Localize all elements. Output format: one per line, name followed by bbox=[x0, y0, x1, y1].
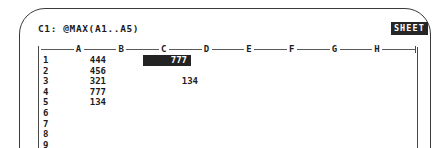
table-row: 2 456 bbox=[38, 66, 418, 77]
column-header-rule bbox=[382, 49, 415, 50]
column-header-h[interactable]: H bbox=[372, 45, 382, 54]
spreadsheet-grid: A B C D E F G H 1 444 777 bbox=[38, 44, 418, 148]
table-row: 9 bbox=[38, 140, 418, 148]
column-header-rule bbox=[126, 49, 159, 50]
cell-c1[interactable]: 777 bbox=[143, 55, 191, 67]
column-header-b[interactable]: B bbox=[116, 45, 126, 54]
cell-c3[interactable]: 134 bbox=[142, 76, 198, 87]
column-header-rule bbox=[41, 49, 74, 50]
table-row: 3 321 134 bbox=[38, 76, 418, 87]
row-number-1[interactable]: 1 bbox=[43, 55, 48, 66]
formula-line: C1: @MAX(A1..A5) bbox=[38, 23, 139, 35]
table-row: 1 444 777 bbox=[38, 55, 418, 66]
cell-a3[interactable]: 321 bbox=[50, 76, 106, 87]
row-number-6[interactable]: 6 bbox=[43, 108, 48, 119]
column-header-g[interactable]: G bbox=[330, 45, 340, 54]
row-number-9[interactable]: 9 bbox=[43, 140, 48, 148]
table-row: 8 bbox=[38, 129, 418, 140]
cell-a1[interactable]: 444 bbox=[50, 55, 106, 66]
grid-rows: 1 444 777 2 456 3 321 134 4 777 5 134 bbox=[38, 55, 418, 148]
cell-a2[interactable]: 456 bbox=[50, 66, 106, 77]
column-header-row: A B C D E F G H bbox=[38, 44, 418, 55]
column-header-rule bbox=[169, 49, 202, 50]
cell-a5[interactable]: 134 bbox=[50, 97, 106, 108]
table-row: 5 134 bbox=[38, 97, 418, 108]
table-row: 6 bbox=[38, 108, 418, 119]
column-header-rule bbox=[84, 49, 117, 50]
table-row: 4 777 bbox=[38, 87, 418, 98]
row-number-3[interactable]: 3 bbox=[43, 76, 48, 87]
table-row: 7 bbox=[38, 119, 418, 130]
column-header-rule bbox=[212, 49, 245, 50]
column-header-rule bbox=[254, 49, 287, 50]
spreadsheet-screen: C1: @MAX(A1..A5) SHEET A B C D E F G H bbox=[0, 0, 446, 148]
column-header-d[interactable]: D bbox=[202, 45, 212, 54]
mode-indicator-badge: SHEET bbox=[391, 22, 428, 35]
column-header-e[interactable]: E bbox=[244, 45, 254, 54]
row-number-5[interactable]: 5 bbox=[43, 97, 48, 108]
column-header-a[interactable]: A bbox=[74, 45, 84, 54]
row-number-7[interactable]: 7 bbox=[43, 119, 48, 130]
column-header-rule bbox=[297, 49, 330, 50]
column-header-f[interactable]: F bbox=[287, 45, 297, 54]
cell-a4[interactable]: 777 bbox=[50, 87, 106, 98]
row-number-4[interactable]: 4 bbox=[43, 87, 48, 98]
column-header-rule bbox=[340, 49, 373, 50]
row-number-8[interactable]: 8 bbox=[43, 129, 48, 140]
row-number-2[interactable]: 2 bbox=[43, 66, 48, 77]
column-header-c[interactable]: C bbox=[159, 45, 169, 54]
